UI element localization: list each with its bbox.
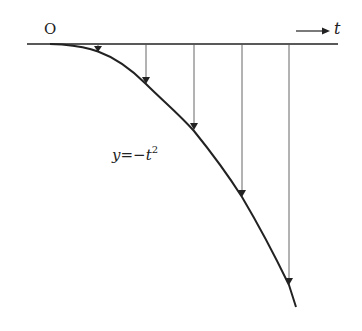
equation-equals: = — [120, 146, 133, 164]
t-direction-arrow-icon — [296, 28, 330, 35]
origin-label: O — [44, 20, 56, 38]
displacement-arrows — [94, 44, 293, 285]
parabola-curve — [50, 44, 296, 307]
equation-exponent: 2 — [152, 144, 158, 155]
t-axis-label: t — [334, 19, 340, 38]
parabola-diagram — [0, 0, 362, 331]
arrow-3-icon — [190, 44, 198, 130]
equation-rhs: −t — [133, 146, 152, 164]
arrow-2-icon — [142, 44, 150, 84]
arrow-5-icon — [285, 44, 293, 285]
arrow-4-icon — [238, 44, 246, 197]
curve-equation-label: y=−t2 — [112, 144, 158, 164]
